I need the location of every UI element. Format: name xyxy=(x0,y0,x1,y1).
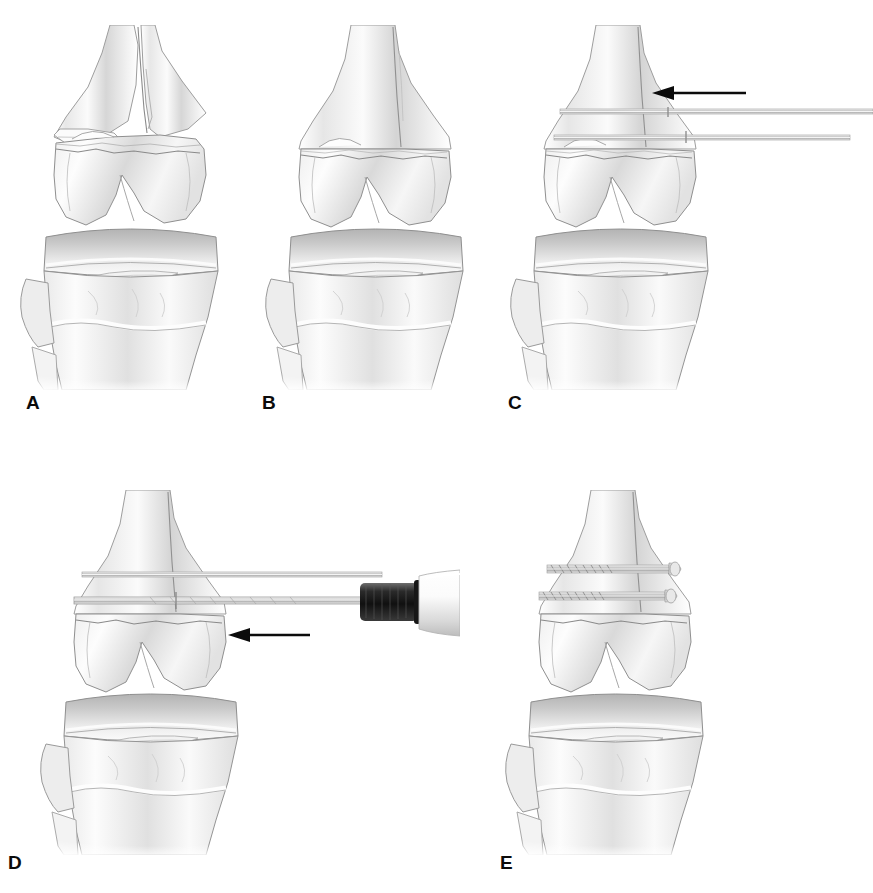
knee-illustration-d xyxy=(30,490,460,855)
drill-handle xyxy=(419,570,460,636)
drill-chuck xyxy=(360,580,421,624)
panel-label-e: E xyxy=(500,853,513,872)
knee-illustration-c xyxy=(500,25,873,390)
knee-illustration-a xyxy=(10,25,260,390)
panel-b xyxy=(255,25,505,390)
panel-a xyxy=(10,25,260,390)
figure-sheet: A xyxy=(0,0,873,893)
panel-label-d: D xyxy=(8,853,22,872)
guide-wire-upper-d xyxy=(82,572,382,577)
direction-arrow-d xyxy=(228,628,310,642)
knee-illustration-e xyxy=(495,490,795,855)
panel-label-c: C xyxy=(508,393,522,412)
panel-label-b: B xyxy=(262,393,276,412)
panel-c xyxy=(500,25,873,390)
panel-d xyxy=(30,490,460,855)
knee-illustration-b xyxy=(255,25,505,390)
panel-e xyxy=(495,490,795,855)
panel-label-a: A xyxy=(26,393,40,412)
